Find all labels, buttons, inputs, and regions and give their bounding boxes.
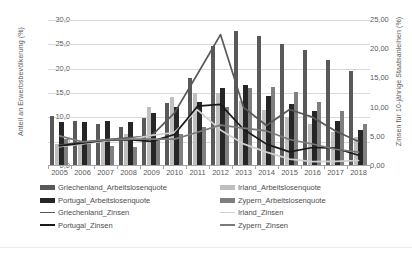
legend-line-swatch-icon	[220, 212, 235, 214]
legend-label: Zypern_Zinsen	[238, 221, 288, 230]
legend-item[interactable]: Zypern_Arbeitslosenquote	[220, 196, 326, 205]
legend-bar-swatch-icon	[40, 185, 55, 190]
legend-line-swatch-icon	[40, 212, 55, 214]
y-axis-right-tick-label: 20,00	[370, 44, 410, 53]
x-axis-label: 2015	[281, 168, 298, 177]
legend-item[interactable]: Zypern_Zinsen	[220, 221, 288, 230]
legend-bar-swatch-icon	[220, 185, 235, 190]
plot-area	[48, 20, 370, 166]
legend-item[interactable]: Griechenland_Zinsen	[40, 208, 129, 217]
chart-figure: Anteil an Erwerbsbevölkerung (%) Zinsen …	[0, 0, 412, 264]
y-axis-right-tick-label: 5,00	[370, 132, 410, 141]
y-axis-right-tick-label: 15,00	[370, 73, 410, 82]
legend-label: Portugal_Arbeitslosenquote	[58, 196, 150, 205]
legend-label: Irland_Zinsen	[238, 208, 283, 217]
chart-legend: Griechenland_ArbeitslosenquoteIrland_Arb…	[40, 183, 380, 233]
legend-label: Zypern_Arbeitslosenquote	[238, 196, 326, 205]
x-axis-tick	[370, 166, 371, 169]
line-series-layer	[48, 20, 370, 166]
x-axis-label: 2017	[327, 168, 344, 177]
x-axis-label: 2014	[258, 168, 275, 177]
x-axis-label: 2005	[51, 168, 68, 177]
legend-item[interactable]: Irland_Arbeitslosenquote	[220, 183, 321, 192]
y-axis-left-title: Anteil an Erwerbsbevölkerung (%)	[17, 2, 24, 162]
legend-item[interactable]: Irland_Zinsen	[220, 208, 283, 217]
legend-line-swatch-icon	[220, 224, 235, 226]
x-axis-labels: 2005200620072008200920102011201220132014…	[48, 168, 370, 180]
legend-label: Irland_Arbeitslosenquote	[238, 183, 321, 192]
legend-item[interactable]: Griechenland_Arbeitslosenquote	[40, 183, 167, 192]
x-axis-label: 2007	[97, 168, 114, 177]
legend-item[interactable]: Portugal_Arbeitslosenquote	[40, 196, 150, 205]
legend-bar-swatch-icon	[40, 198, 55, 203]
x-axis-label: 2011	[189, 168, 205, 177]
x-axis-label: 2016	[304, 168, 321, 177]
y-axis-right-tick-label: 25,00	[370, 15, 410, 24]
x-axis-label: 2018	[350, 168, 367, 177]
x-axis-label: 2008	[120, 168, 137, 177]
legend-label: Portugal_Zinsen	[58, 221, 113, 230]
legend-bar-swatch-icon	[220, 198, 235, 203]
legend-label: Griechenland_Arbeitslosenquote	[58, 183, 167, 192]
x-axis-label: 2006	[74, 168, 91, 177]
x-axis-label: 2012	[212, 168, 229, 177]
x-axis-label: 2013	[235, 168, 252, 177]
y-axis-right-tick-label: 10,00	[370, 103, 410, 112]
legend-item[interactable]: Portugal_Zinsen	[40, 221, 113, 230]
bottom-divider	[0, 247, 412, 248]
legend-line-swatch-icon	[40, 224, 55, 226]
y-axis-right-tick-label: 0,00	[370, 161, 410, 170]
x-axis-label: 2009	[143, 168, 160, 177]
legend-label: Griechenland_Zinsen	[58, 208, 129, 217]
line-series	[60, 104, 359, 155]
x-axis-label: 2010	[166, 168, 183, 177]
